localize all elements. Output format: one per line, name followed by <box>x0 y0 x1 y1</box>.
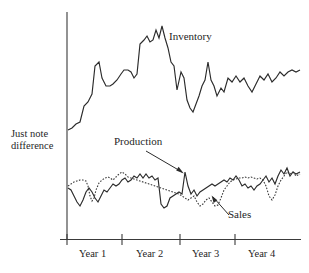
series-line-production <box>68 168 300 208</box>
y-axis-note-line-2: difference <box>11 140 67 152</box>
x-axis-label-year-1: Year 1 <box>79 248 106 260</box>
y-axis-note: Just note difference <box>11 128 67 153</box>
production-arrow-head <box>176 167 184 174</box>
sales-series-label: Sales <box>228 208 251 221</box>
x-axis-label-year-3: Year 3 <box>192 248 219 260</box>
y-axis-note-line-1: Just note <box>11 128 67 140</box>
sales-arrow-head <box>212 195 218 203</box>
x-axis-label-year-2: Year 2 <box>136 248 163 260</box>
production-arrow-line <box>146 151 182 172</box>
x-axis-label-year-4: Year 4 <box>248 248 275 260</box>
line-chart-figure: Just note difference Inventory Productio… <box>0 0 309 273</box>
inventory-series-label: Inventory <box>169 30 212 43</box>
production-series-label: Production <box>114 135 162 148</box>
